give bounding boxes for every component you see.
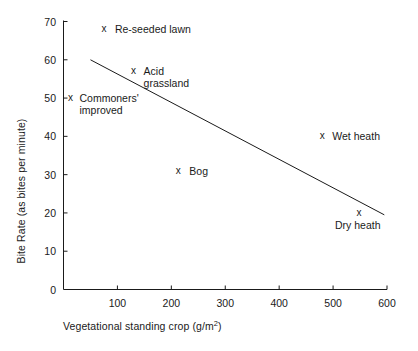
x-tick-label: 100	[100, 298, 134, 309]
x-axis-title-tail: )	[218, 320, 222, 332]
bite-rate-vs-standing-crop-chart: 010203040506070 100200300400500600 xRe-s…	[0, 0, 418, 351]
data-point-marker: x	[320, 131, 325, 141]
y-tick-label: 30	[30, 170, 56, 181]
x-tick-label: 500	[316, 298, 350, 309]
y-tick-label: 50	[30, 93, 56, 104]
plot-area: 010203040506070 100200300400500600 xRe-s…	[0, 0, 418, 351]
data-point-label: Commoners' improved	[80, 92, 139, 116]
data-point-marker: x	[131, 66, 136, 76]
y-tick-label: 60	[30, 55, 56, 66]
y-tick-label: 0	[30, 285, 56, 296]
data-point-label: Dry heath	[335, 219, 381, 231]
x-tick-label: 300	[208, 298, 242, 309]
x-tick-label: 400	[262, 298, 296, 309]
x-axis-title: Vegetational standing crop (g/m2)	[63, 320, 222, 332]
y-tick-label: 40	[30, 131, 56, 142]
y-tick-label: 70	[30, 17, 56, 28]
data-point-marker: x	[176, 166, 181, 176]
data-point-marker: x	[356, 208, 361, 218]
y-axis-title: Bite Rate (as bites per minute)	[15, 91, 27, 291]
y-tick-label: 10	[30, 246, 56, 257]
data-point-label: Bog	[189, 165, 208, 177]
data-point-marker: x	[101, 24, 106, 34]
x-axis-title-main: Vegetational standing crop (g/m	[63, 320, 214, 332]
x-tick-label: 600	[370, 298, 404, 309]
tick-marks-group	[64, 22, 388, 290]
x-tick-label: 200	[154, 298, 188, 309]
data-point-marker: x	[68, 93, 73, 103]
y-tick-label: 20	[30, 208, 56, 219]
data-point-label: Wet heath	[332, 130, 380, 142]
data-point-label: Re-seeded lawn	[115, 23, 191, 35]
axes-group	[64, 21, 388, 290]
data-point-label: Acid grassland	[144, 65, 190, 89]
